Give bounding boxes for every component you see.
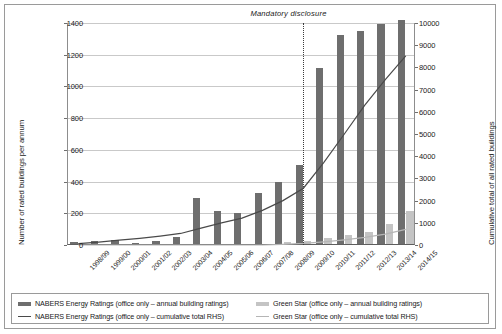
line-series-group <box>68 23 416 245</box>
y-axis-left-tick-label: 1200 <box>67 50 83 59</box>
legend-swatch-bar-icon <box>256 302 269 306</box>
x-axis-tick-label: 2012/13 <box>375 249 397 271</box>
legend-item[interactable]: NABERS Energy Ratings (office only – ann… <box>18 299 229 308</box>
y-axis-right-title: Cumulative total of all rated buildings <box>487 121 496 245</box>
y-axis-right-tick-label: 1000 <box>419 218 435 227</box>
y-axis-right-tickmark <box>415 23 418 24</box>
y-axis-right-tickmark <box>415 67 418 68</box>
y-axis-right-tickmark <box>415 201 418 202</box>
mandatory-disclosure-label: Mandatory disclosure <box>250 9 326 18</box>
y-axis-right-tick-label: 6000 <box>419 107 435 116</box>
legend-item[interactable]: NABERS Energy Ratings (office only – cum… <box>18 312 224 321</box>
y-axis-right-tickmark <box>415 178 418 179</box>
x-axis-tick-label: 2009/10 <box>314 249 336 271</box>
legend-label: NABERS Energy Ratings (office only – ann… <box>35 299 229 308</box>
x-axis-tick-label: 1999/00 <box>109 249 131 271</box>
y-axis-left-tick-label: 1000 <box>67 82 83 91</box>
legend-item[interactable]: Green Star (office only – annual buildin… <box>256 299 422 308</box>
y-axis-right-tick-label: 5000 <box>419 130 435 139</box>
x-axis-tick-label: 2007/08 <box>273 249 295 271</box>
y-axis-left-tickmark <box>64 86 67 87</box>
y-axis-right-tickmark <box>415 134 418 135</box>
y-axis-right-tickmark <box>415 112 418 113</box>
x-axis-tick-label: 2000/01 <box>129 249 151 271</box>
legend-label: Green Star (office only – cumulative tot… <box>273 312 418 321</box>
y-axis-left-tick-label: 200 <box>71 209 83 218</box>
plot-area <box>67 23 415 245</box>
y-axis-left-tick-label: 800 <box>71 114 83 123</box>
y-axis-right-tick-label: 0 <box>419 241 423 250</box>
y-axis-left-tick-label: 0 <box>79 241 83 250</box>
x-axis-tick-label: 2001/02 <box>150 249 172 271</box>
legend-swatch-line-icon <box>18 316 31 318</box>
y-axis-left-tick-label: 1400 <box>67 19 83 28</box>
y-axis-right-tickmark <box>415 223 418 224</box>
x-axis-tick-label: 2002/03 <box>170 249 192 271</box>
y-axis-left-tick-label: 600 <box>71 145 83 154</box>
y-axis-left-tickmark <box>64 213 67 214</box>
x-axis-tick-label: 2011/12 <box>354 249 376 271</box>
y-axis-left-tickmark <box>64 182 67 183</box>
legend-swatch-bar-icon <box>18 302 31 306</box>
y-axis-right-tickmark <box>415 156 418 157</box>
x-axis-tick-label: 2014/15 <box>416 249 438 271</box>
y-axis-right-tick-label: 4000 <box>419 152 435 161</box>
y-axis-right-tickmark <box>415 90 418 91</box>
mandatory-disclosure-line <box>303 23 304 245</box>
legend-label: NABERS Energy Ratings (office only – cum… <box>35 312 224 321</box>
y-axis-left-tickmark <box>64 118 67 119</box>
chart-legend: NABERS Energy Ratings (office only – ann… <box>11 293 489 324</box>
y-axis-right-tick-label: 8000 <box>419 63 435 72</box>
x-axis-tick-label: 2003/04 <box>191 249 213 271</box>
x-axis-tick-label: 2008/09 <box>293 249 315 271</box>
y-axis-left-tick-label: 400 <box>71 177 83 186</box>
y-axis-right-tick-label: 3000 <box>419 174 435 183</box>
line-series <box>78 56 406 244</box>
plot-wrap: Number of rated buildings per annum Cumu… <box>5 5 497 289</box>
x-axis-tick-label: 2010/11 <box>334 249 356 271</box>
y-axis-right-tick-label: 7000 <box>419 85 435 94</box>
x-axis-tick-label: 1998/99 <box>88 249 110 271</box>
figure-container: Number of rated buildings per annum Cumu… <box>4 4 496 329</box>
y-axis-right-tickmark <box>415 245 418 246</box>
x-axis-tick-label: 2005/06 <box>232 249 254 271</box>
y-axis-right-tick-label: 10000 <box>419 19 439 28</box>
y-axis-right-tick-label: 2000 <box>419 196 435 205</box>
y-axis-left-tickmark <box>64 55 67 56</box>
x-axis-tick-label: 2006/07 <box>252 249 274 271</box>
legend-item[interactable]: Green Star (office only – cumulative tot… <box>256 312 418 321</box>
y-axis-left-tickmark <box>64 23 67 24</box>
line-series <box>78 229 406 245</box>
y-axis-right-tick-label: 9000 <box>419 41 435 50</box>
y-axis-left-title: Number of rated buildings per annum <box>17 120 26 245</box>
legend-label: Green Star (office only – annual buildin… <box>273 299 422 308</box>
y-axis-left-tickmark <box>64 150 67 151</box>
y-axis-left-tickmark <box>64 245 67 246</box>
x-axis-tick-label: 2013/14 <box>395 249 417 271</box>
legend-swatch-line-icon <box>256 316 269 318</box>
y-axis-right-tickmark <box>415 45 418 46</box>
x-axis-tick-label: 2004/05 <box>211 249 233 271</box>
